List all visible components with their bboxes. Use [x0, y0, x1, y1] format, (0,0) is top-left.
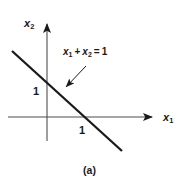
y-axis-label-subscript: 2 [30, 22, 34, 31]
figure-container: x2 x1 1 1 x1+x2=1 (a) [0, 0, 179, 185]
equation-term-1: x [63, 46, 69, 57]
constraint-line [12, 51, 122, 151]
figure-caption: (a) [0, 165, 179, 176]
equation-term-2-subscript: 2 [88, 51, 92, 58]
equation-value: 1 [102, 46, 108, 57]
annotation-pointer-arrow [66, 66, 86, 87]
equation-term-1-subscript: 1 [69, 51, 73, 58]
equation-plus-sign: + [74, 46, 80, 57]
x-axis-label: x1 [163, 112, 173, 123]
line-equation-label: x1+x2=1 [63, 47, 107, 57]
equation-equals-sign: = [94, 46, 100, 57]
x-axis-label-subscript: 1 [169, 116, 173, 125]
y-intercept-tick-label: 1 [33, 86, 39, 97]
x-intercept-tick-label: 1 [79, 125, 85, 136]
y-axis-label: x2 [24, 18, 34, 29]
